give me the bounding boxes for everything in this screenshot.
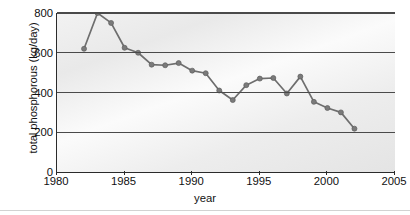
data-point-2001 <box>338 110 343 115</box>
data-point-1996 <box>271 75 276 80</box>
gridline-200 <box>57 132 395 133</box>
x-tick-mark-2005 <box>394 171 395 175</box>
data-point-1985 <box>122 45 127 50</box>
x-tick-mark-1990 <box>191 171 192 175</box>
x-tick-mark-1985 <box>124 171 125 175</box>
data-point-1982 <box>82 46 87 51</box>
data-point-1998 <box>298 74 303 79</box>
plot-inner <box>57 13 395 172</box>
x-tick-mark-2000 <box>326 171 327 175</box>
x-tick-mark-1980 <box>56 171 57 175</box>
data-point-1990 <box>190 68 195 73</box>
chart-figure: total phosphorous (kg/day) 0200400600800… <box>0 0 410 215</box>
y-tick-label-800: 800 <box>19 7 53 19</box>
x-tick-label-1980: 1980 <box>26 175 86 187</box>
data-point-1991 <box>203 71 208 76</box>
x-tick-label-2005: 2005 <box>364 175 410 187</box>
data-point-1984 <box>109 20 114 25</box>
gridline-600 <box>57 52 395 53</box>
y-tick-label-200: 200 <box>19 126 53 138</box>
gridline-400 <box>57 92 395 93</box>
data-point-1993 <box>230 98 235 103</box>
data-point-1989 <box>176 61 181 66</box>
data-point-2002 <box>352 126 357 131</box>
y-tick-label-400: 400 <box>19 87 53 99</box>
x-tick-mark-1995 <box>259 171 260 175</box>
x-tick-label-1985: 1985 <box>94 175 154 187</box>
data-point-1995 <box>257 76 262 81</box>
plot-area <box>56 13 395 173</box>
footer-divider <box>0 210 410 211</box>
data-point-1994 <box>244 83 249 88</box>
gridline-800 <box>57 12 395 13</box>
data-point-1987 <box>149 62 154 67</box>
x-axis-label: year <box>0 192 410 204</box>
x-tick-label-1995: 1995 <box>229 175 289 187</box>
data-point-1988 <box>163 63 168 68</box>
y-tick-label-600: 600 <box>19 47 53 59</box>
x-tick-label-1990: 1990 <box>161 175 221 187</box>
series-polyline <box>84 13 354 129</box>
data-point-1999 <box>311 99 316 104</box>
data-point-2000 <box>325 106 330 111</box>
x-tick-label-2000: 2000 <box>296 175 356 187</box>
